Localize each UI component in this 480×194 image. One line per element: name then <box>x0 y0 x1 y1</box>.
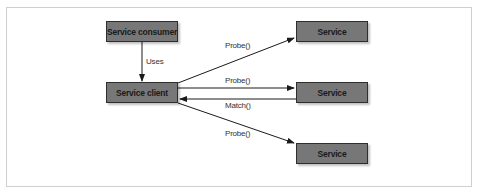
node-service-2: Service <box>296 82 368 103</box>
edges-layer <box>0 0 480 194</box>
node-service-1: Service <box>296 21 368 42</box>
edge-label-uses: Uses <box>146 57 163 66</box>
edge-label-probe-2: Probe() <box>225 76 250 85</box>
edge-label-probe-1: Probe() <box>225 41 250 50</box>
node-service-client: Service client <box>106 82 178 103</box>
edge-label-probe-3: Probe() <box>225 129 250 138</box>
node-service-consumer: Service consumer <box>106 21 178 42</box>
edge-label-match: Match() <box>225 101 251 110</box>
node-service-3: Service <box>296 143 368 164</box>
